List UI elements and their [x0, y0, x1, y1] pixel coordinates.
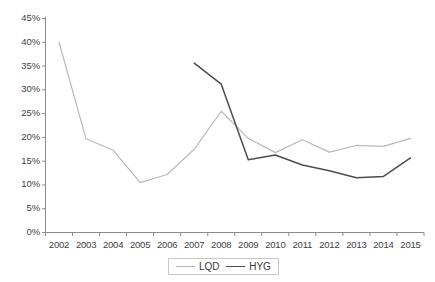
- legend-item-lqd: LQD: [176, 261, 219, 272]
- legend-item-hyg: HYG: [226, 261, 270, 272]
- y-axis-tick-label: 25%: [8, 107, 40, 118]
- legend-line-swatch-lqd: [176, 266, 195, 267]
- x-axis-tick-label: 2009: [235, 239, 262, 250]
- x-axis-tick-label: 2008: [208, 239, 235, 250]
- legend-label-hyg: HYG: [249, 261, 270, 272]
- x-axis-tick-label: 2004: [100, 239, 127, 250]
- x-axis-tick-label: 2013: [343, 239, 370, 250]
- y-axis-tick-label: 45%: [8, 12, 40, 23]
- x-axis-tick-label: 2010: [262, 239, 289, 250]
- series-line-hyg: [194, 63, 410, 178]
- x-axis-tick-label: 2014: [370, 239, 397, 250]
- x-axis-tick-label: 2015: [397, 239, 424, 250]
- y-axis-tick-label: 35%: [8, 60, 40, 71]
- y-axis-tick-label: 40%: [8, 36, 40, 47]
- y-axis-tick-label: 5%: [8, 202, 40, 213]
- x-axis-tick-label: 2011: [289, 239, 316, 250]
- x-axis-tick-label: 2007: [181, 239, 208, 250]
- chart-axes: [42, 17, 424, 237]
- x-axis-tick-label: 2005: [127, 239, 154, 250]
- chart-legend: LQD HYG: [168, 258, 279, 275]
- line-chart: 0%5%10%15%20%25%30%35%40%45% 20022003200…: [0, 0, 435, 282]
- series-line-lqd: [59, 42, 410, 182]
- y-axis-tick-label: 15%: [8, 155, 40, 166]
- legend-line-swatch-hyg: [226, 266, 245, 267]
- x-axis-tick-label: 2006: [154, 239, 181, 250]
- x-axis-tick-label: 2002: [46, 239, 73, 250]
- legend-label-lqd: LQD: [199, 261, 219, 272]
- x-axis-tick-label: 2012: [316, 239, 343, 250]
- chart-series: [59, 42, 410, 182]
- y-axis-tick-label: 10%: [8, 178, 40, 189]
- y-axis-tick-label: 30%: [8, 83, 40, 94]
- x-axis-tick-label: 2003: [73, 239, 100, 250]
- y-axis-tick-label: 20%: [8, 131, 40, 142]
- y-axis-tick-label: 0%: [8, 226, 40, 237]
